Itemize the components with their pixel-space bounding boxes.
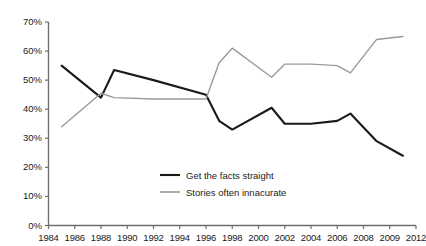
x-axis-tick-label: 1994 [170,233,190,243]
legend-swatch-group [160,175,180,192]
x-axis-tick-label: 1992 [143,233,163,243]
legend-item-label: Get the facts straight [186,170,274,181]
x-axis-tick-label: 2004 [301,233,321,243]
x-axis-tick-label: 2012 [406,233,426,243]
x-axis-tick-label: 1988 [91,233,111,243]
x-axis-tick-label: 1990 [117,233,137,243]
y-axis-tick-label: 10% [8,191,42,201]
y-axis-tick-label: 0% [8,221,42,231]
data-series-group [62,37,403,156]
y-axis-tick-label: 50% [8,75,42,85]
series-line [62,37,403,127]
x-axis-tick-label: 1984 [38,233,58,243]
x-axis-tick-label: 2009 [380,233,400,243]
x-axis-tick-label: 2000 [248,233,268,243]
y-axis-tick-label: 70% [8,17,42,27]
series-line [62,66,403,156]
x-axis-tick-label: 1998 [222,233,242,243]
y-axis-tick-label: 60% [8,46,42,56]
y-axis-tick-label: 20% [8,162,42,172]
legend-item-label: Stories often innacurate [186,187,286,198]
x-axis-tick-label: 2002 [275,233,295,243]
x-axis-tick-label: 2006 [327,233,347,243]
y-axis-tick-label: 30% [8,133,42,143]
x-axis-tick-label: 2008 [353,233,373,243]
x-axis-tick-label: 1996 [196,233,216,243]
x-axis-tick-label: 1986 [65,233,85,243]
y-axis-tick-label: 40% [8,104,42,114]
